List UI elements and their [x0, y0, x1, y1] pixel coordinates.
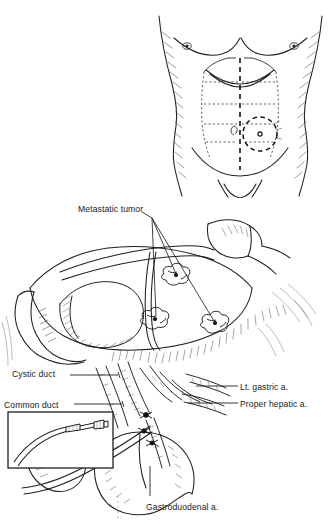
torso-panel	[148, 8, 333, 198]
tumor-nodule-left	[141, 307, 169, 329]
label-proper-hepatic-artery: Proper hepatic a.	[240, 400, 307, 409]
port-site-marking	[243, 117, 277, 151]
label-gastroduodenal-artery: Gastroduodenal a.	[146, 503, 218, 512]
label-lt-gastric-artery: Lt. gastric a.	[240, 383, 288, 392]
operative-panel	[0, 196, 335, 524]
label-common-duct: Common duct	[4, 401, 59, 410]
label-metastatic-tumor: Metastatic tumor	[78, 205, 143, 214]
label-cystic-duct: Cystic duct	[12, 370, 55, 379]
medical-figure: Metastatic tumor Cystic duct Common duct…	[0, 0, 335, 524]
tumor-nodule-right	[201, 311, 229, 333]
tumor-leader-lines	[152, 218, 214, 321]
ligature-knots	[138, 412, 158, 446]
catheter-detail-inset	[8, 412, 113, 468]
